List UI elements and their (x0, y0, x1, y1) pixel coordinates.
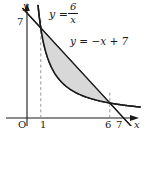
line-curve-top (23, 9, 139, 135)
x-axis-label: x (134, 120, 140, 130)
fraction-numerator: 6 (68, 2, 78, 12)
x-tick-label-7: 7 (116, 120, 122, 130)
y-tick-label-7: 7 (17, 17, 23, 27)
x-tick-label-6: 6 (105, 120, 111, 130)
hyperbola-equation-label: y =6x (49, 3, 78, 26)
line-equation-label: y = −x + 7 (70, 36, 128, 47)
hyperbola-fraction: 6x (68, 2, 78, 25)
graph-canvas (0, 0, 147, 192)
origin-label: O (18, 120, 26, 130)
fraction-denominator: x (68, 15, 78, 25)
y-axis-label: y (23, 1, 29, 11)
hyperbola-equation-lhs: y = (49, 9, 68, 20)
x-tick-label-1: 1 (40, 120, 46, 130)
math-figure: y x O 1 6 7 7 y =6x y = −x + 7 (0, 0, 147, 192)
